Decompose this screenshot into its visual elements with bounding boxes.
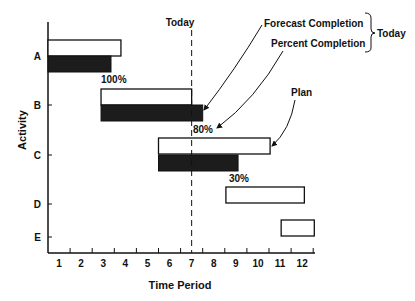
plan-label: Plan bbox=[291, 87, 312, 98]
y-ticks: ABCDE bbox=[34, 51, 52, 243]
actual-bar-b bbox=[101, 105, 203, 121]
x-tick-label: 1 bbox=[56, 258, 62, 269]
x-tick-label: 8 bbox=[211, 258, 217, 269]
brace-icon bbox=[365, 13, 375, 52]
x-tick-label: 3 bbox=[100, 258, 106, 269]
x-tick-label: 5 bbox=[145, 258, 151, 269]
actual-bar-a bbox=[48, 56, 111, 72]
gantt-chart: 123456789101112 ABCDE Today 100% 80% 30%… bbox=[0, 0, 415, 301]
x-tick-label: 7 bbox=[189, 258, 195, 269]
percent-label-b: 80% bbox=[193, 124, 213, 135]
percent-label-c: 30% bbox=[229, 173, 249, 184]
x-tick-label: 6 bbox=[167, 258, 173, 269]
activity-label-d: D bbox=[34, 199, 41, 210]
forecast-completion-label: Forecast Completion bbox=[264, 18, 363, 29]
activity-label-b: B bbox=[34, 100, 41, 111]
x-tick-label: 11 bbox=[275, 258, 286, 269]
percent-completion-label: Percent Completion bbox=[271, 38, 365, 49]
activity-label-c: C bbox=[34, 150, 41, 161]
activity-label-e: E bbox=[34, 232, 41, 243]
x-tick-label: 4 bbox=[123, 258, 129, 269]
forecast-arrow bbox=[204, 25, 262, 110]
x-tick-label: 9 bbox=[233, 258, 239, 269]
x-tick-label: 2 bbox=[78, 258, 84, 269]
x-axis-title: Time Period bbox=[149, 279, 212, 291]
x-tick-label: 12 bbox=[297, 258, 309, 269]
y-axis-title: Activity bbox=[16, 109, 28, 150]
plan-arrow bbox=[272, 100, 295, 146]
plan-bar-e bbox=[281, 220, 314, 236]
bars bbox=[48, 40, 314, 236]
plan-bar-a bbox=[48, 40, 121, 56]
plan-bar-d bbox=[226, 187, 304, 203]
actual-bar-c bbox=[159, 155, 239, 171]
x-ticks: 123456789101112 bbox=[56, 248, 313, 269]
activity-label-a: A bbox=[34, 51, 41, 62]
plan-bar-c bbox=[159, 138, 271, 154]
brace-today-label: Today bbox=[377, 28, 406, 39]
today-label: Today bbox=[166, 17, 195, 28]
plan-bar-b bbox=[101, 89, 192, 105]
percent-arrow bbox=[217, 51, 283, 128]
x-tick-label: 10 bbox=[252, 258, 264, 269]
percent-label-a: 100% bbox=[101, 74, 127, 85]
